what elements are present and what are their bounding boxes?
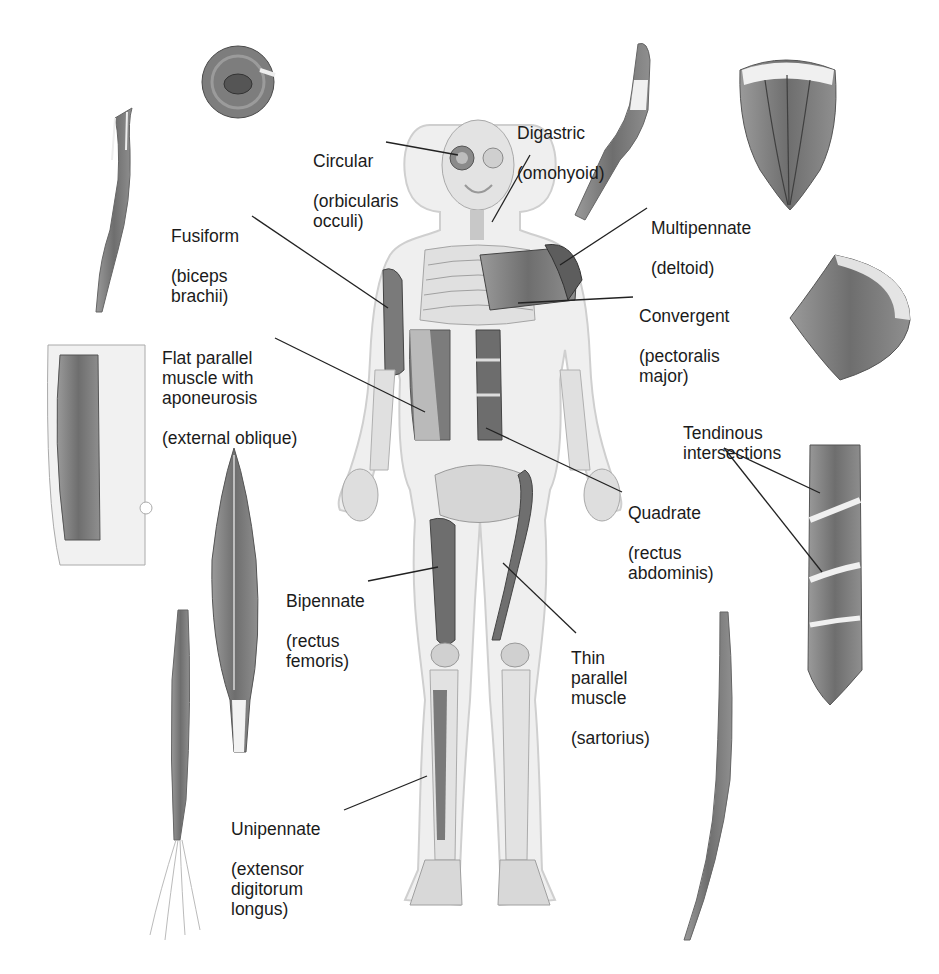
unipennate-example: (extensor digitorum longus) [231,859,304,919]
quadrate-type: Quadrate [628,503,701,523]
label-flat-parallel: Flat parallel muscle with aponeurosis (e… [162,328,297,448]
flat-parallel-muscle-illustration [48,345,153,565]
unipennate-type: Unipennate [231,819,321,839]
multipennate-example: (deltoid) [651,258,714,278]
convergent-example: (pectoralis major) [639,346,720,386]
convergent-muscle-illustration [790,255,910,380]
thin-parallel-muscle-illustration [684,612,732,940]
convergent-type: Convergent [639,306,729,326]
flat-parallel-example: (external oblique) [162,428,297,448]
tendinous-intersections-muscle-illustration [808,445,862,705]
label-quadrate: Quadrate (rectus abdominis) [628,483,714,583]
tendinous-type: Tendinous intersections [683,423,781,463]
circular-example: (orbicularis occuli) [313,191,399,231]
circular-muscle-illustration [202,46,275,118]
thin-parallel-example: (sartorius) [571,728,650,748]
illustration [0,0,939,974]
fusiform-muscle-illustration [96,108,132,312]
label-bipennate: Bipennate (rectus femoris) [286,571,365,671]
muscle-diagram: Circular (orbicularis occuli) Digastric … [0,0,939,974]
label-unipennate: Unipennate (extensor digitorum longus) [231,799,321,919]
label-thin-parallel: Thin parallel muscle (sartorius) [571,628,650,748]
quadrate-example: (rectus abdominis) [628,543,714,583]
thin-parallel-type: Thin parallel muscle [571,648,627,708]
label-convergent: Convergent (pectoralis major) [639,286,729,386]
label-circular: Circular (orbicularis occuli) [313,131,399,231]
bipennate-type: Bipennate [286,591,365,611]
bipennate-example: (rectus femoris) [286,631,349,671]
multipennate-type: Multipennate [651,218,751,238]
flat-parallel-type: Flat parallel muscle with aponeurosis [162,348,257,408]
fusiform-type: Fusiform [171,226,239,246]
multipennate-muscle-illustration [740,60,836,210]
fusiform-example: (biceps brachii) [171,266,228,306]
label-tendinous-intersections: Tendinous intersections [683,403,781,463]
unipennate-muscle-illustration [150,610,200,940]
label-multipennate: Multipennate (deltoid) [651,198,751,278]
body-figure [339,120,622,905]
label-fusiform: Fusiform (biceps brachii) [171,206,239,306]
digastric-type: Digastric [517,123,585,143]
bipennate-muscle-illustration [212,448,258,752]
circular-type: Circular [313,151,373,171]
digastric-example: (omohyoid) [517,163,605,183]
label-digastric: Digastric (omohyoid) [517,103,605,183]
